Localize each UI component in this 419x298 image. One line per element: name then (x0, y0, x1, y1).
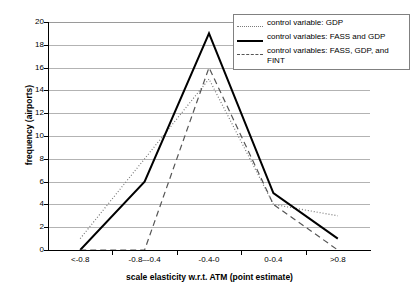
legend-entry-1: control variables: FASS and GDP (237, 32, 406, 42)
y-tick-label-10: 10 (0, 132, 44, 140)
dotted-line-swatch (237, 22, 263, 31)
legend-entry-2: control variables: FASS, GDP, and FINT (237, 46, 406, 66)
data-point-s2-c2 (205, 63, 214, 72)
x-axis-line (48, 250, 371, 251)
y-tick-label-16: 16 (0, 64, 44, 72)
x-tick-label-4: >0.8 (298, 256, 378, 264)
legend-entry-0: control variable: GDP (237, 18, 406, 28)
data-point-s0-c4 (333, 211, 342, 220)
y-tick-label-20: 20 (0, 18, 44, 26)
y-axis-line (48, 22, 49, 251)
data-point-s1-c1 (140, 177, 149, 186)
series-line-0 (80, 79, 338, 239)
solid-line-swatch (237, 36, 263, 45)
y-tick-label-8: 8 (0, 155, 44, 163)
legend-label-1: control variables: FASS and GDP (267, 32, 385, 42)
data-point-s1-c2 (205, 29, 214, 38)
y-axis-title: frequency (airports) (24, 45, 34, 205)
y-tick-label-2: 2 (0, 223, 44, 231)
data-point-s0-c0 (76, 234, 85, 243)
dashed-line-swatch (237, 50, 263, 59)
x-axis-title: scale elasticity w.r.t. ATM (point estim… (48, 272, 371, 282)
data-point-s0-c1 (140, 154, 149, 163)
y-tick-label-4: 4 (0, 200, 44, 208)
chart-legend: control variable: GDPcontrol variables: … (233, 14, 410, 70)
chart-figure: 20181614121086420 <-0.8-0.8–-0.4-0.4-00-… (0, 0, 419, 298)
y-tick-label-18: 18 (0, 41, 44, 49)
x-tick-mark-2 (177, 251, 178, 255)
y-tick-label-12: 12 (0, 109, 44, 117)
x-tick-mark-1 (112, 251, 113, 255)
data-point-s0-c2 (205, 75, 214, 84)
series-line-2 (80, 68, 338, 250)
y-tick-label-6: 6 (0, 178, 44, 186)
y-tick-label-14: 14 (0, 86, 44, 94)
legend-label-0: control variable: GDP (267, 18, 343, 28)
x-tick-mark-3 (241, 251, 242, 255)
y-tick-label-0: 0 (0, 246, 44, 254)
data-point-s2-c3 (269, 200, 278, 209)
x-tick-mark-4 (306, 251, 307, 255)
legend-label-2: control variables: FASS, GDP, and FINT (267, 46, 406, 66)
data-point-s1-c3 (269, 189, 278, 198)
data-point-s1-c4 (333, 234, 342, 243)
